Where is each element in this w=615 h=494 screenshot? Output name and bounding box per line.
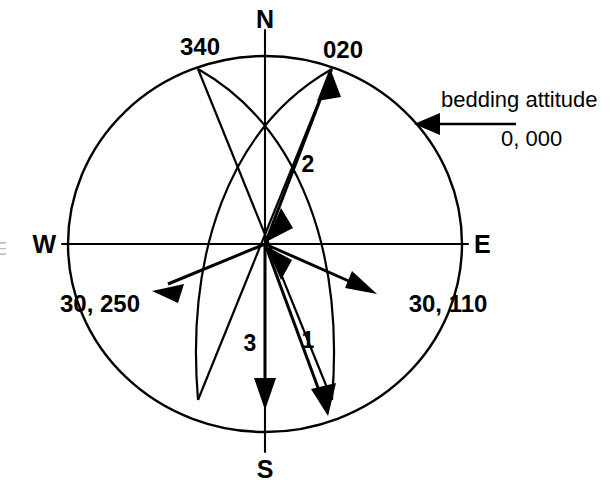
annotation-title: bedding attitude [441, 87, 598, 112]
dip-arrow-southeast-head [345, 271, 377, 294]
dip-arrow-southwest-head [152, 284, 184, 303]
label-azimuth-020: 020 [323, 36, 363, 63]
label-attitude-30-250: 30, 250 [60, 290, 140, 317]
label-west: W [32, 230, 56, 258]
stereonet-figure: N S E W 340 020 30, 250 30, 110 2 1 3 be… [0, 0, 615, 494]
label-azimuth-340: 340 [180, 33, 220, 60]
dip-arrow-southwest [168, 244, 265, 284]
label-east: E [474, 230, 491, 258]
label-north: N [256, 5, 274, 33]
label-lineation-1: 1 [302, 327, 315, 353]
label-south: S [257, 455, 274, 483]
label-lineation-2: 2 [302, 151, 315, 177]
label-attitude-30-110: 30, 110 [409, 290, 488, 317]
lineation-2-inner-arrowhead [266, 208, 293, 242]
lineation-2-outer-arrowhead [317, 68, 341, 101]
annotation-leader-arrowhead [414, 113, 440, 135]
lineation-3-arrowhead [254, 378, 276, 410]
label-lineation-3: 3 [244, 330, 257, 356]
annotation-value: 0, 000 [501, 126, 562, 151]
